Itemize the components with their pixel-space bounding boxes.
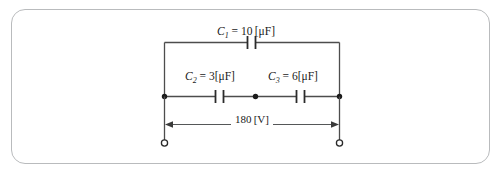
label-voltage-value: 180 [235, 113, 252, 125]
label-voltage-unit: [V] [254, 113, 269, 125]
junction-node-center [253, 94, 258, 99]
label-c2-symbol: C [185, 70, 193, 82]
branch-c1 [165, 36, 340, 97]
label-c2-equals: = [197, 70, 209, 82]
label-capacitor-c3: C3 = 6[μF] [268, 71, 318, 85]
label-c3-equals: = [280, 70, 292, 82]
label-c2-unit: [μF] [215, 70, 235, 82]
label-c1-symbol: C [217, 25, 225, 37]
label-source-voltage: 180 [V] [231, 114, 273, 125]
branch-c2-c3 [162, 90, 342, 103]
label-c1-unit: [μF] [255, 25, 275, 37]
label-capacitor-c1: C1 = 10 [μF] [217, 26, 275, 40]
terminal-left [161, 140, 167, 146]
terminal-right [336, 140, 342, 146]
dimension-arrow-left [165, 121, 173, 128]
label-c3-symbol: C [268, 70, 276, 82]
label-c3-unit: [μF] [298, 70, 318, 82]
label-c1-value: 10 [241, 25, 253, 37]
label-capacitor-c2: C2 = 3[μF] [185, 71, 235, 85]
dimension-arrow-right [331, 121, 339, 128]
label-c1-equals: = [229, 25, 241, 37]
